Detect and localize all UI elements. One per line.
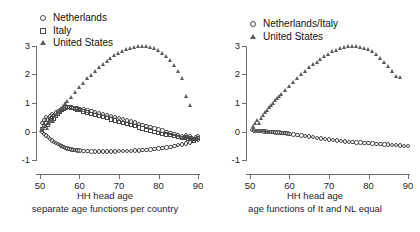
y-tick-label: 0 (6, 127, 30, 137)
data-point (85, 76, 89, 80)
circle-marker-icon (40, 15, 46, 21)
data-point (299, 72, 303, 76)
data-point (279, 92, 283, 96)
data-point (180, 76, 184, 80)
data-point (398, 75, 402, 79)
y-tick (242, 74, 247, 75)
data-point (386, 64, 390, 68)
data-point (93, 69, 97, 73)
circle-marker-icon (250, 21, 256, 27)
legend-label: Netherlands/Italy (263, 18, 338, 31)
data-point (176, 69, 180, 73)
data-point (287, 84, 291, 88)
data-point (69, 95, 73, 99)
y-tick-label: 3 (216, 41, 240, 51)
data-point (45, 126, 49, 130)
data-point (295, 76, 299, 80)
data-point (65, 99, 69, 103)
panel-left: Netherlands Italy United States 3210-150… (0, 0, 210, 232)
y-tick-label: 1 (6, 98, 30, 108)
x-tick (198, 174, 199, 179)
y-tick (242, 46, 247, 47)
x-tick (408, 174, 409, 179)
data-point (196, 138, 200, 142)
figure-two-panel-scatter: Netherlands Italy United States 3210-150… (0, 0, 420, 232)
x-tick (40, 174, 41, 179)
y-tick (32, 103, 37, 104)
panel-subtitle-right: age functions of It and NL equal (210, 203, 420, 215)
y-tick (32, 74, 37, 75)
axis-title-left: HH head age (0, 190, 210, 202)
data-point (97, 65, 101, 69)
x-tick (369, 174, 370, 179)
x-tick (159, 174, 160, 179)
y-tick (242, 132, 247, 133)
data-point (291, 80, 295, 84)
data-point (73, 90, 77, 94)
y-tick (32, 132, 37, 133)
data-point (77, 85, 81, 89)
legend-label: Netherlands (53, 12, 107, 25)
data-point (303, 69, 307, 73)
data-point (172, 63, 176, 67)
x-tick (250, 174, 251, 179)
y-tick-label: 2 (6, 69, 30, 79)
x-tick (289, 174, 290, 179)
y-tick-label: -1 (6, 155, 30, 165)
panel-right: Netherlands/Italy United States 3210-150… (210, 0, 420, 232)
panel-subtitle-left: separate age functions per country (0, 203, 210, 215)
y-tick-label: 2 (216, 69, 240, 79)
x-tick (79, 174, 80, 179)
data-point (184, 94, 188, 98)
square-marker-icon (40, 28, 46, 34)
y-tick (32, 46, 37, 47)
data-point (406, 144, 410, 148)
data-point (81, 81, 85, 85)
data-point (168, 58, 172, 62)
y-tick (242, 103, 247, 104)
axis-title-right: HH head age (210, 190, 420, 202)
plot-area-left: 3210-15060708090 (36, 36, 200, 170)
data-point (51, 119, 55, 123)
y-tick-label: -1 (216, 155, 240, 165)
data-point (188, 103, 192, 107)
y-tick-label: 0 (216, 127, 240, 137)
data-point (257, 121, 261, 125)
data-point (89, 73, 93, 77)
y-tick (32, 160, 37, 161)
x-tick (119, 174, 120, 179)
plot-area-right: 3210-15060708090 (246, 36, 410, 170)
y-tick-label: 1 (216, 98, 240, 108)
x-tick (329, 174, 330, 179)
data-point (382, 60, 386, 64)
data-point (283, 88, 287, 92)
y-tick-label: 3 (6, 41, 30, 51)
y-tick (242, 160, 247, 161)
